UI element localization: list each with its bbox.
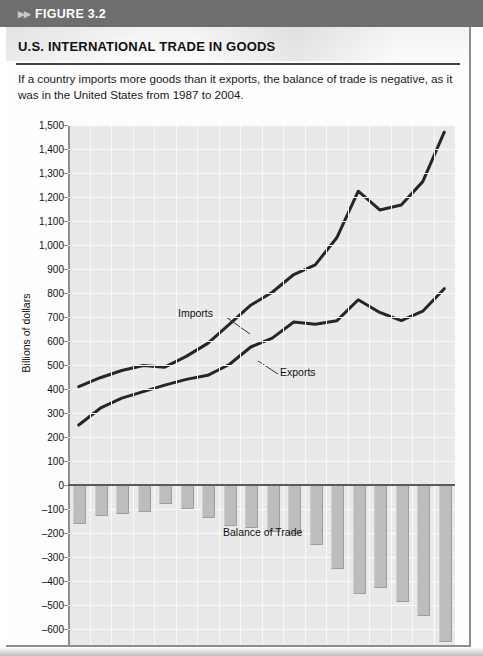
y-axis-tick-mark: [64, 629, 68, 630]
y-axis-tick-mark: [64, 197, 68, 198]
y-axis-tick-mark: [64, 317, 68, 318]
y-axis-tick-label: 500: [47, 360, 64, 371]
y-axis-tick-label: –100: [42, 504, 64, 515]
y-axis-tick-mark: [64, 341, 68, 342]
y-axis-tick-mark: [64, 509, 68, 510]
bar-balance-of-trade: [224, 485, 237, 526]
y-axis-tick-label: 600: [47, 336, 64, 347]
bar-balance-of-trade: [95, 485, 108, 516]
y-axis-tick-mark: [64, 221, 68, 222]
y-axis-tick-mark: [64, 581, 68, 582]
gridline-vertical: [305, 125, 306, 647]
gridline-vertical: [283, 125, 284, 647]
gridline-vertical: [111, 125, 112, 647]
y-axis-tick-label: –300: [42, 552, 64, 563]
bar-balance-of-trade: [331, 485, 344, 569]
y-axis-tick-label: 800: [47, 288, 64, 299]
double-chevron-right-icon: ▸▸: [18, 7, 30, 20]
bar-balance-of-trade: [116, 485, 129, 514]
y-axis-tick-label: 1,500: [39, 120, 64, 131]
y-axis-tick-label: –200: [42, 528, 64, 539]
y-axis-tick-mark: [64, 389, 68, 390]
bar-balance-of-trade: [310, 485, 323, 545]
bar-balance-of-trade: [73, 485, 86, 524]
annotation-exports: Exports: [280, 366, 316, 378]
figure-body: U.S. INTERNATIONAL TRADE IN GOODS If a c…: [6, 27, 471, 647]
gridline-vertical: [348, 125, 349, 647]
figure-header-band: ▸▸ FIGURE 3.2: [0, 0, 483, 27]
y-axis-tick-mark: [64, 437, 68, 438]
chart: Billions of dollars 1,5001,4001,3001,200…: [6, 27, 471, 647]
y-axis-tick-label: –600: [42, 624, 64, 635]
y-axis-tick-mark: [64, 557, 68, 558]
figure-number-label: FIGURE 3.2: [35, 7, 106, 21]
y-axis-tick-label: 1,000: [39, 240, 64, 251]
gridline-vertical: [391, 125, 392, 647]
figure-tag: ▸▸ FIGURE 3.2: [14, 3, 116, 24]
annotation-balance-of-trade: Balance of Trade: [223, 526, 302, 538]
y-axis-tick-label: 1,300: [39, 168, 64, 179]
y-axis-tick-mark: [64, 269, 68, 270]
y-axis-tick-mark: [64, 125, 68, 126]
y-axis-title: Billions of dollars: [20, 268, 32, 398]
y-axis-tick-mark: [64, 293, 68, 294]
bar-balance-of-trade: [267, 485, 280, 532]
plot-area: 1,5001,4001,3001,2001,1001,0009008007006…: [68, 125, 455, 647]
y-axis-tick-mark: [64, 173, 68, 174]
y-axis-tick-label: 1,200: [39, 192, 64, 203]
gridline-vertical: [176, 125, 177, 647]
bar-balance-of-trade: [417, 485, 430, 616]
gridline-vertical: [412, 125, 413, 647]
y-axis-tick-mark: [64, 413, 68, 414]
y-axis-tick-label: 300: [47, 408, 64, 419]
bar-balance-of-trade: [353, 485, 366, 594]
bar-balance-of-trade: [396, 485, 409, 602]
gridline-vertical: [326, 125, 327, 647]
bar-balance-of-trade: [138, 485, 151, 512]
gridline-vertical: [154, 125, 155, 647]
y-axis-tick-label: 200: [47, 432, 64, 443]
gridline-vertical: [90, 125, 91, 647]
y-axis-tick-mark: [64, 533, 68, 534]
annotation-imports: Imports: [178, 307, 213, 319]
y-axis-tick-label: –500: [42, 600, 64, 611]
gridline-vertical: [262, 125, 263, 647]
y-axis-tick-label: 700: [47, 312, 64, 323]
y-axis-tick-label: 1,400: [39, 144, 64, 155]
page-bottom-edge: [0, 647, 483, 656]
y-axis-tick-label: 400: [47, 384, 64, 395]
bar-balance-of-trade: [245, 485, 258, 528]
gridline-vertical: [240, 125, 241, 647]
y-axis-tick-mark: [64, 461, 68, 462]
bar-balance-of-trade: [439, 485, 452, 642]
y-axis-tick-label: –400: [42, 576, 64, 587]
bar-balance-of-trade: [202, 485, 215, 518]
bar-balance-of-trade: [159, 485, 172, 504]
y-axis-tick-label: 1,100: [39, 216, 64, 227]
gridline-vertical: [133, 125, 134, 647]
gridline-vertical: [369, 125, 370, 647]
y-axis-tick-mark: [64, 605, 68, 606]
y-axis-tick-mark: [64, 245, 68, 246]
y-axis-tick-label: 100: [47, 456, 64, 467]
bar-balance-of-trade: [374, 485, 387, 588]
gridline-vertical: [197, 125, 198, 647]
zero-axis-line: [68, 484, 455, 486]
gridline-vertical: [219, 125, 220, 647]
y-axis-tick-mark: [64, 365, 68, 366]
figure-card: ▸▸ FIGURE 3.2 U.S. INTERNATIONAL TRADE I…: [0, 0, 483, 656]
gridline-vertical: [434, 125, 435, 647]
y-axis-tick-label: 900: [47, 264, 64, 275]
bar-balance-of-trade: [181, 485, 194, 509]
y-axis-tick-mark: [64, 149, 68, 150]
